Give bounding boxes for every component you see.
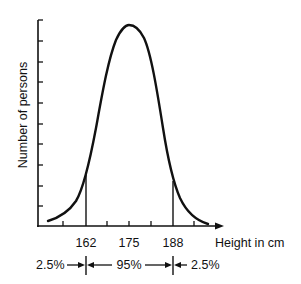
x-axis-arrow-icon bbox=[215, 223, 224, 230]
pct-right-label: 2.5% bbox=[191, 258, 220, 272]
bell-curve bbox=[48, 25, 208, 224]
x-axis-label: Height in cm bbox=[215, 236, 284, 250]
x-tick-label-162: 162 bbox=[76, 236, 97, 250]
x-tick-label-188: 188 bbox=[163, 236, 184, 250]
arrow-right-icon bbox=[78, 262, 85, 268]
y-axis-label: Number of persons bbox=[16, 62, 30, 168]
pct-left-label: 2.5% bbox=[36, 258, 65, 272]
normal-distribution-chart: Number of persons 162 175 188 Height in … bbox=[0, 0, 301, 284]
pct-mid-label: 95% bbox=[116, 258, 141, 272]
x-tick-label-175: 175 bbox=[119, 236, 140, 250]
arrow-right-icon bbox=[165, 262, 172, 268]
